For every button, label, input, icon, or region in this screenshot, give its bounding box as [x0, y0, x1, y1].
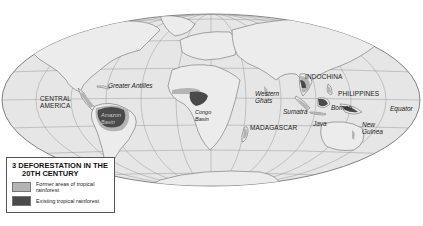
- label-java: Java: [313, 120, 327, 127]
- legend-label: Former areas of tropical rainforest: [36, 181, 109, 193]
- label-congo-basin: CongoBasin: [195, 109, 211, 123]
- label-sumatra: Sumatra: [283, 108, 308, 115]
- label-western-ghats: WesternGhats: [255, 90, 279, 104]
- label-greater-antilles: Greater Antilles: [108, 82, 153, 89]
- legend-subtitle: 20TH CENTURY: [12, 170, 109, 178]
- label-new-guinea: NewGuinea: [362, 121, 383, 135]
- label-indochina: INDOCHINA: [305, 73, 342, 80]
- label-philippines: PHILIPPINES: [338, 90, 379, 97]
- legend-item-former: Former areas of tropical rainforest: [12, 181, 109, 193]
- legend-item-existing: Existing tropical rainforest: [12, 196, 109, 206]
- legend-label: Existing tropical rainforest: [36, 198, 99, 204]
- label-madagascar: MADAGASCAR: [250, 124, 297, 131]
- label-central-america: CENTRALAMERICA: [40, 95, 71, 109]
- swatch-former-rainforest: [12, 182, 31, 192]
- swatch-existing-rainforest: [12, 196, 31, 206]
- label-borneo: Borneo: [331, 104, 352, 111]
- label-equator: Equator: [390, 105, 413, 112]
- label-amazon-basin: AmazonBasin: [101, 112, 121, 126]
- map-legend: 3 DEFORESTATION IN THE 20TH CENTURY Form…: [6, 157, 115, 213]
